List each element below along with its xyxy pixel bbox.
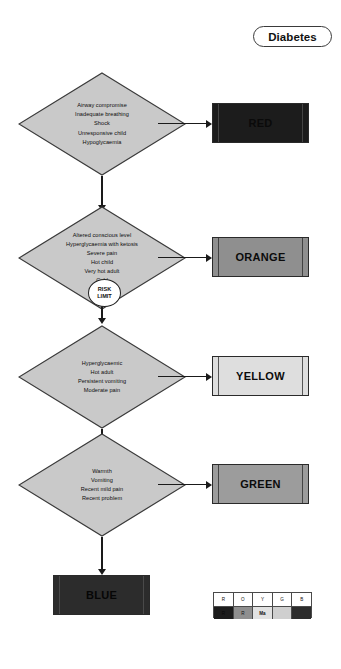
flowchart-canvas: Diabetes Airway compromise Inadequate br… [0, 0, 341, 669]
box-inner-line-right [302, 238, 303, 276]
box-inner-line-left [59, 576, 60, 614]
legend-header-o: O [234, 593, 254, 606]
legend-header-b: B [292, 593, 311, 606]
box-inner-line-left [218, 465, 219, 503]
legend-swatch-row: R R Ma [214, 606, 311, 619]
outcome-label-yellow: YELLOW [236, 370, 285, 382]
outcome-box-red[interactable]: RED [212, 103, 309, 143]
box-inner-line-left [218, 104, 219, 142]
box-inner-line-left [218, 357, 219, 395]
legend-header-g: G [273, 593, 293, 606]
arrow-down-icon [98, 318, 106, 324]
connector-yellow [158, 376, 208, 377]
legend-swatch-yellow: Ma [253, 607, 273, 619]
outcome-box-orange[interactable]: ORANGE [212, 237, 309, 277]
outcome-box-blue[interactable]: BLUE [53, 575, 150, 615]
risk-limit-node[interactable]: RISK LIMIT [88, 279, 121, 307]
risk-limit-line2: LIMIT [97, 293, 112, 300]
legend-table: R O Y G B R R Ma [213, 592, 312, 618]
legend-header-y: Y [253, 593, 273, 606]
connector-orange [158, 257, 208, 258]
box-inner-line-right [302, 465, 303, 503]
legend-header-r: R [214, 593, 234, 606]
outcome-label-orange: ORANGE [235, 251, 285, 263]
legend-swatch-green [273, 607, 293, 619]
outcome-box-yellow[interactable]: YELLOW [212, 356, 309, 396]
connector-red [158, 123, 208, 124]
box-inner-line-left [218, 238, 219, 276]
legend-header-row: R O Y G B [214, 593, 311, 606]
legend-swatch-blue [292, 607, 311, 619]
box-inner-line-right [143, 576, 144, 614]
outcome-label-blue: BLUE [86, 589, 117, 601]
connector-green [158, 484, 208, 485]
risk-limit-line1: RISK [98, 286, 111, 293]
outcome-label-green: GREEN [240, 478, 281, 490]
connector-green-to-blue [101, 537, 102, 573]
legend-swatch-orange: R [234, 607, 254, 619]
box-inner-line-right [302, 104, 303, 142]
outcome-label-red: RED [248, 117, 272, 129]
page-title-label: Diabetes [268, 31, 317, 43]
page-title: Diabetes [253, 26, 332, 47]
legend-swatch-red: R [214, 607, 234, 619]
box-inner-line-right [302, 357, 303, 395]
outcome-box-green[interactable]: GREEN [212, 464, 309, 504]
